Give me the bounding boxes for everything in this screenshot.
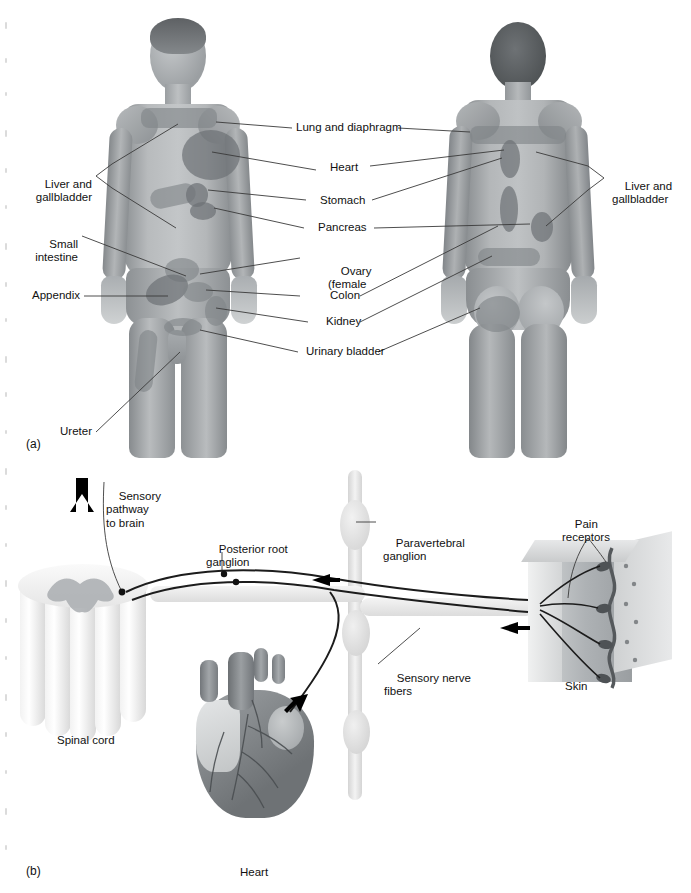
label-sensory-pathway-to-brain: Sensorypathwayto brain (106, 476, 161, 544)
label-stomach: Stomach (320, 194, 365, 208)
zone-liver-gallbladder-posterior-a (500, 186, 518, 232)
label-colon: Colon (330, 289, 360, 303)
panel-a-label: (a) (26, 437, 41, 451)
posterior-head (490, 22, 546, 90)
label-kidney: Kidney (326, 315, 361, 329)
label-heart-panel-b: Heart (240, 866, 268, 880)
zone-kidney-anterior (205, 296, 227, 326)
posterior-leg-left (469, 324, 515, 458)
zone-lung-diaphragm-posterior (470, 126, 566, 144)
anterior-hand-left (101, 276, 127, 324)
zone-heart-anterior (182, 130, 240, 180)
posterior-hand-right (571, 276, 597, 324)
label-urinary-bladder: Urinary bladder (306, 345, 385, 359)
anterior-hair (150, 18, 206, 54)
anterior-hand-right (231, 276, 257, 324)
posterior-hand-left (441, 276, 467, 324)
label-sensory-nerve-fibers: Sensory nervefibers (384, 658, 471, 712)
label-ureter: Ureter (0, 425, 92, 439)
paravertebral-ganglion-node (340, 500, 370, 550)
label-liver-gallbladder-left: Liver andgallbladder (0, 164, 92, 218)
label-appendix: Appendix (0, 289, 80, 303)
referred-pain-figure: Liver andgallbladder Smallintestine Appe… (0, 0, 691, 893)
label-spinal-cord: Spinal cord (57, 734, 115, 748)
zone-kidney-posterior (478, 248, 540, 266)
label-skin: Skin (565, 680, 587, 694)
zone-urinary-bladder-anterior (164, 318, 202, 336)
label-small-intestine: Smallintestine (0, 224, 78, 278)
anterior-leg-right (181, 318, 227, 458)
posterior-leg-right (521, 324, 567, 458)
label-posterior-root-ganglion: Posterior rootganglion (206, 529, 288, 583)
zone-lung-diaphragm-anterior (141, 108, 217, 128)
zone-liver-gallbladder-posterior-b (531, 212, 553, 242)
panel-b-label: (b) (26, 864, 41, 878)
label-liver-gallbladder-right: Liver andgallbladder (612, 166, 672, 220)
zone-stomach-posterior (500, 140, 520, 178)
label-pancreas: Pancreas (318, 221, 367, 235)
label-lung-diaphragm: Lung and diaphragm (296, 121, 402, 135)
scan-edge-artifacts (0, 0, 16, 893)
zone-pancreas-anterior (190, 202, 216, 220)
label-paravertebral-ganglion: Paravertebralganglion (383, 523, 465, 577)
label-heart-anterior: Heart (330, 161, 358, 175)
label-pain-receptors: Painreceptors (562, 504, 610, 558)
